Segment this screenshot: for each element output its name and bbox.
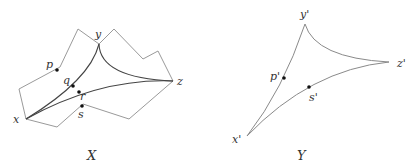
label-z: z — [176, 75, 183, 88]
diagram-canvas: p q r s x y z X p' s' x' y' z' Y — [0, 0, 417, 168]
label-z-prime: z' — [396, 57, 406, 70]
point-q — [71, 84, 75, 88]
space-x-outline — [19, 29, 173, 127]
edge-y-z — [305, 24, 389, 62]
label-p-prime: p' — [270, 70, 280, 83]
point-p-prime — [282, 76, 286, 80]
caption-x: X — [86, 148, 97, 163]
label-y-prime: y' — [299, 8, 309, 21]
label-p: p — [46, 58, 53, 71]
label-r: r — [80, 90, 86, 103]
label-s-prime: s' — [309, 91, 318, 104]
label-x: x — [13, 113, 20, 126]
space-x: p q r s x y z X — [13, 28, 183, 163]
point-s-prime — [307, 85, 311, 89]
edge-x-z — [247, 62, 389, 136]
label-x-prime: x' — [232, 133, 241, 146]
space-y: p' s' x' y' z' Y — [232, 8, 406, 163]
point-p — [55, 68, 59, 72]
label-q: q — [63, 74, 70, 87]
geodesic-y-z — [99, 44, 173, 81]
label-s: s — [78, 108, 84, 121]
label-y: y — [94, 28, 102, 41]
caption-y: Y — [297, 148, 307, 163]
